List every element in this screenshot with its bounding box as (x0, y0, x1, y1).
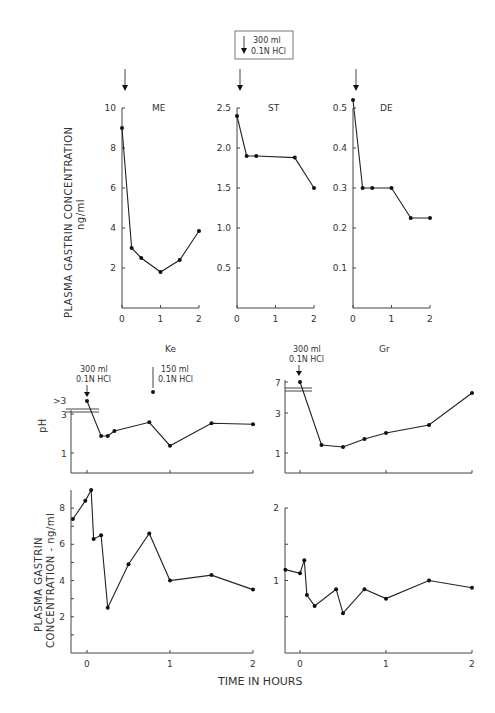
figure: 300 ml 0.1N HCl PLASMA GASTRIN CONCENTRA… (0, 0, 495, 713)
data-point (168, 579, 172, 583)
data-point (106, 434, 110, 438)
panel-title-me: ME (152, 103, 166, 113)
svg-text:0: 0 (297, 659, 303, 669)
svg-text:4: 4 (59, 576, 65, 586)
data-point (112, 429, 116, 433)
data-point (106, 606, 110, 610)
panel-title-gr: Gr (379, 344, 390, 354)
svg-text:0.1: 0.1 (333, 263, 347, 273)
data-point (71, 517, 75, 521)
data-point (351, 98, 355, 102)
data-point (99, 434, 103, 438)
svg-text:2.5: 2.5 (217, 103, 231, 113)
data-point (159, 270, 163, 274)
data-point (85, 399, 89, 403)
svg-text:1: 1 (275, 449, 281, 459)
svg-text:2: 2 (250, 659, 256, 669)
panel-title-st: ST (268, 103, 280, 113)
svg-text:7: 7 (275, 378, 281, 388)
data-point (283, 568, 287, 572)
data-point (254, 154, 258, 158)
svg-text:0: 0 (119, 314, 125, 324)
data-point (384, 431, 388, 435)
svg-text:>3: >3 (53, 396, 66, 406)
svg-text:3: 3 (275, 409, 281, 419)
data-point (363, 587, 367, 591)
svg-text:2: 2 (110, 263, 116, 273)
svg-text:2: 2 (311, 314, 317, 324)
ke-dose1-line2: 0.1N HCl (76, 375, 111, 384)
data-point (470, 391, 474, 395)
ke-dose1-line1: 300 ml (80, 365, 108, 374)
svg-text:1: 1 (273, 314, 279, 324)
data-point (99, 533, 103, 537)
data-point (89, 488, 93, 492)
svg-text:0.2: 0.2 (333, 223, 347, 233)
svg-text:0.3: 0.3 (333, 183, 347, 193)
svg-text:1: 1 (61, 449, 67, 459)
svg-text:0.5: 0.5 (333, 103, 347, 113)
svg-text:1: 1 (273, 576, 279, 586)
svg-text:1: 1 (383, 659, 389, 669)
data-point (427, 423, 431, 427)
top-y-axis-unit: ng/ml (75, 199, 86, 230)
svg-text:1.5: 1.5 (217, 183, 231, 193)
svg-text:1: 1 (167, 659, 173, 669)
data-point (139, 256, 143, 260)
gr-dose-line2: 0.1N HCl (289, 355, 324, 364)
data-point (341, 445, 345, 449)
data-point (120, 126, 124, 130)
svg-text:10: 10 (105, 103, 117, 113)
arrow-down-icon (84, 392, 90, 397)
data-point (320, 443, 324, 447)
svg-text:2: 2 (59, 612, 65, 622)
svg-text:2.0: 2.0 (217, 143, 232, 153)
data-point (178, 258, 182, 262)
arrow-down-icon (296, 371, 302, 376)
data-point (210, 421, 214, 425)
arrow-down-icon (237, 85, 243, 91)
data-point (361, 186, 365, 190)
bottom-y-axis-unit: CONCENTRATION - ng/ml (45, 513, 56, 648)
svg-text:2: 2 (427, 314, 433, 324)
svg-text:4: 4 (110, 223, 116, 233)
data-point (235, 114, 239, 118)
legend-box: 300 ml 0.1N HCl (235, 31, 293, 59)
svg-text:6: 6 (59, 539, 65, 549)
data-point (127, 562, 131, 566)
svg-text:2: 2 (273, 503, 279, 513)
bottom-y-axis-label: PLASMA GASTRIN (33, 537, 44, 632)
svg-text:8: 8 (59, 503, 65, 513)
data-point (363, 437, 367, 441)
gr-dose-line1: 300 ml (293, 345, 321, 354)
svg-text:0.4: 0.4 (333, 143, 348, 153)
data-point (92, 537, 96, 541)
data-point (428, 216, 432, 220)
data-point (302, 558, 306, 562)
data-point (130, 246, 134, 250)
x-axis-label: TIME IN HOURS (217, 675, 302, 688)
data-point (147, 420, 151, 424)
data-point (298, 380, 302, 384)
data-point (409, 216, 413, 220)
svg-text:0: 0 (234, 314, 240, 324)
top-y-axis-label: PLASMA GASTRIN CONCENTRATION (63, 126, 74, 318)
svg-text:1: 1 (158, 314, 164, 324)
legend-line2: 0.1N HCl (251, 47, 286, 56)
data-point (251, 588, 255, 592)
svg-text:1.0: 1.0 (217, 223, 232, 233)
data-point (427, 579, 431, 583)
svg-text:2: 2 (469, 659, 475, 669)
ke-dose2-line1: 150 ml (161, 365, 189, 374)
data-point (384, 597, 388, 601)
data-point (313, 604, 317, 608)
data-point (147, 531, 151, 535)
svg-text:3: 3 (61, 410, 67, 420)
svg-text:6: 6 (110, 183, 116, 193)
data-point (370, 186, 374, 190)
svg-text:0: 0 (350, 314, 356, 324)
data-point (251, 422, 255, 426)
data-point (293, 156, 297, 160)
data-point (245, 154, 249, 158)
arrow-down-icon (122, 85, 128, 91)
